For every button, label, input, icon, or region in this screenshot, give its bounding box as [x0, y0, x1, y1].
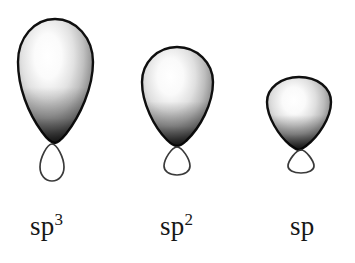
sp-orbital-group — [267, 77, 331, 173]
sp2-lobe-bottom-shade — [142, 47, 213, 146]
sp2-minor-lobe — [164, 147, 190, 175]
orbital-label-sp2: sp2 — [160, 213, 193, 240]
sp-minor-lobe — [288, 150, 314, 173]
sp2-orbital-group — [142, 47, 213, 175]
sp3-minor-lobe — [40, 144, 64, 181]
hybrid-orbital-figure: sp3 sp2 sp — [0, 0, 355, 263]
orbital-label-sp2-base: sp — [160, 211, 184, 241]
sp3-orbital-group — [18, 19, 93, 181]
sp-lobe-bottom-shade — [267, 77, 331, 150]
orbital-label-sp2-exponent: 2 — [184, 210, 193, 229]
orbital-label-sp3-base: sp — [30, 211, 54, 241]
sp3-lobe-bottom-shade — [18, 19, 93, 143]
orbital-label-sp3-exponent: 3 — [54, 210, 63, 229]
orbital-label-sp3: sp3 — [30, 213, 63, 240]
orbital-label-sp: sp — [290, 213, 314, 240]
orbital-label-sp-base: sp — [290, 211, 314, 241]
